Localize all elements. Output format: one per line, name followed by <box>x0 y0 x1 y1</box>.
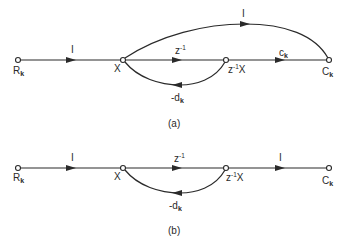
node-output-b <box>327 166 332 171</box>
node-output-a <box>327 58 332 63</box>
arrow-icon <box>172 82 182 88</box>
node-x-b <box>121 166 126 171</box>
branch-label-output-a: ck <box>279 47 288 59</box>
node-label-input-a: Rk <box>13 65 24 77</box>
caption-b: (b) <box>168 225 180 236</box>
signal-flow-graph-b: I z-1 I -dk Rk X z-1X Ck (b) <box>13 152 333 236</box>
node-delay-b <box>224 166 229 171</box>
node-label-x-a: X <box>114 63 121 74</box>
branch-feedback-b <box>125 170 225 193</box>
arrow-icon <box>172 165 182 171</box>
node-label-input-b: Rk <box>13 172 24 184</box>
node-label-output-b: Ck <box>322 175 333 187</box>
branch-feedforward-a <box>125 24 328 58</box>
node-delay-a <box>224 58 229 63</box>
arrow-icon <box>172 57 182 63</box>
node-label-x-b: X <box>114 171 121 182</box>
branch-label-output-b: I <box>279 152 282 163</box>
arrow-icon <box>172 190 182 196</box>
arrow-icon <box>66 165 76 171</box>
caption-a: (a) <box>168 118 180 129</box>
signal-flow-graph-a: I z-1 ck I -dk Rk X z <box>13 8 333 129</box>
arrow-icon <box>240 21 250 27</box>
node-label-output-a: Ck <box>322 66 333 78</box>
branch-label-feedback-b: -dk <box>169 200 182 212</box>
node-input-a <box>16 58 21 63</box>
node-label-delay-b: z-1X <box>226 171 244 183</box>
branch-label-delay-b: z-1 <box>174 152 185 164</box>
branch-label-delay-a: z-1 <box>175 44 186 56</box>
branch-label-feedforward-a: I <box>242 8 245 19</box>
branch-label-feedback-a: -dk <box>171 92 184 104</box>
node-x-a <box>121 58 126 63</box>
arrow-icon <box>275 165 285 171</box>
branch-feedback-a <box>125 62 225 85</box>
node-label-delay-a: z-1X <box>228 63 246 75</box>
arrow-icon <box>66 57 76 63</box>
branch-label-input-b: I <box>71 152 74 163</box>
branch-label-input-a: I <box>71 44 74 55</box>
node-input-b <box>16 166 21 171</box>
